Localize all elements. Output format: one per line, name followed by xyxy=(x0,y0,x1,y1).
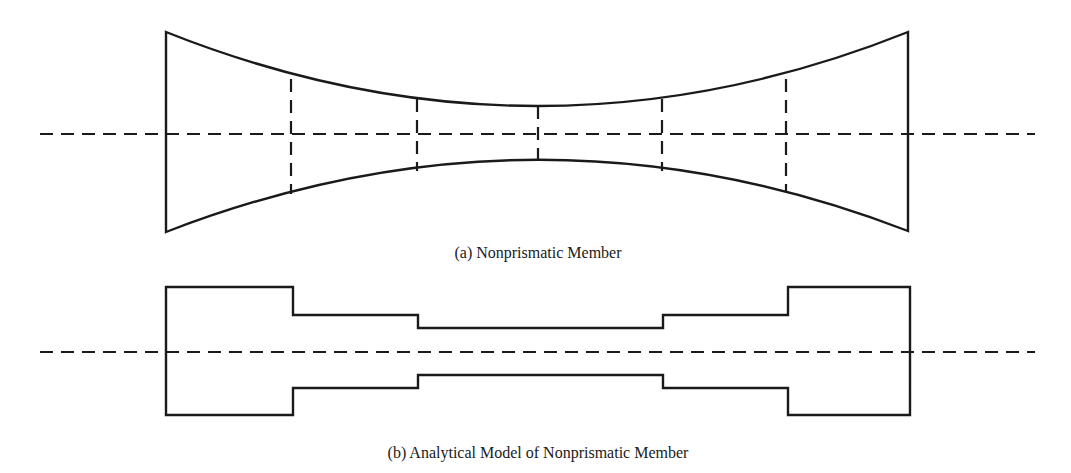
panel-b-caption: (b) Analytical Model of Nonprismatic Mem… xyxy=(388,444,689,462)
panel-a-nonprismatic-member xyxy=(40,32,1035,232)
panel-b-analytical-model xyxy=(40,287,1035,415)
nonprismatic-member-figure xyxy=(0,0,1071,473)
panel-a-caption: (a) Nonprismatic Member xyxy=(454,244,621,262)
